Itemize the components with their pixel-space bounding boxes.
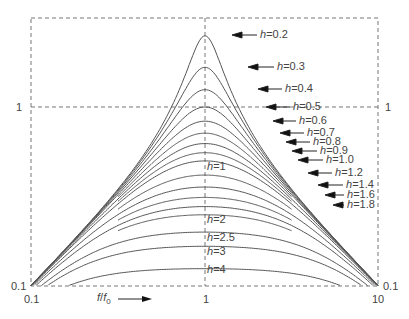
arrow-head-icon [232,32,242,38]
curve-inline-label: h=4 [207,264,226,275]
curve-label: h=0.6 [299,115,327,126]
arrow-head-icon [273,118,283,124]
curve-label: h=0.5 [293,101,321,112]
x-label-subscript: 0 [106,297,110,306]
curve-h-0-8 [33,144,377,285]
x-axis-arrow [118,296,152,302]
y-tick-left-bottom: 0.1 [11,281,26,292]
y-tick-right-bottom: 0.1 [383,281,398,292]
arrow-head-icon [280,130,290,136]
y-tick-right-one: 1 [385,102,391,113]
curve-label: h=0.2 [260,29,288,40]
curve-label: h=1.2 [335,167,363,178]
x-tick-left: 0.1 [24,294,39,305]
arrow-head-icon [292,148,302,154]
arrow-head-icon [325,192,335,198]
curve-label: h=0.4 [285,83,313,94]
arrow-head-icon [258,86,268,92]
x-tick-mid: 1 [203,294,209,305]
arrow-head-icon [266,104,276,110]
curve-inline-label: h=1 [207,161,226,172]
curve-h-1 [33,161,377,285]
arrow-head-icon [318,182,328,188]
curve-label: h=1.8 [347,199,375,210]
curve-inline-label: h=3 [207,246,226,257]
curve-inline-label: h=2.5 [207,232,235,243]
arrow-head-icon [286,139,296,145]
arrow-head-icon [333,202,343,208]
curve-inline-label: h=2 [207,214,226,225]
curve-label: h=0.3 [277,61,305,72]
x-axis-label: f/f0 [97,292,111,307]
arrow-head-icon [308,170,318,176]
arrow-head-icon [248,64,258,70]
y-tick-left-one: 1 [16,102,22,113]
label-arrows [232,32,344,208]
curve-label: h=1.0 [326,154,354,165]
arrow-head-icon [298,157,308,163]
x-tick-right: 10 [372,294,384,305]
